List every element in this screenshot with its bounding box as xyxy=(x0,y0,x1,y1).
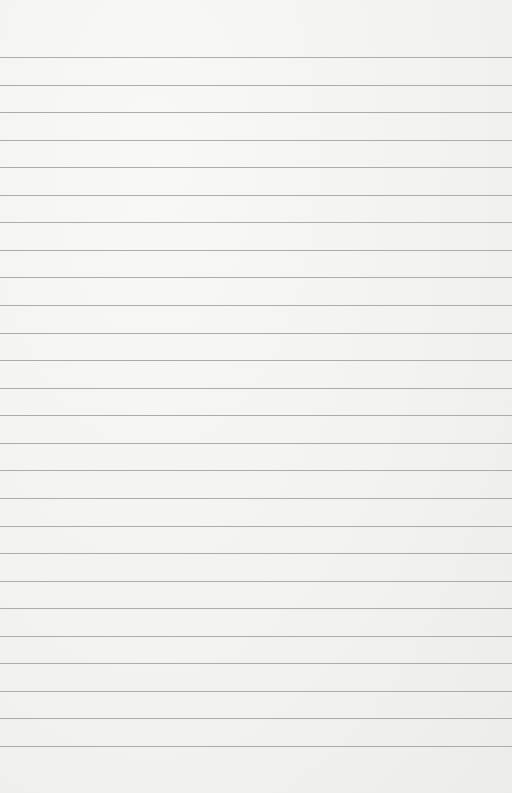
ruled-line xyxy=(0,250,512,251)
ruled-line xyxy=(0,608,512,609)
ruled-line xyxy=(0,277,512,278)
ruled-line xyxy=(0,691,512,692)
ruled-line xyxy=(0,443,512,444)
lined-paper xyxy=(0,0,512,793)
ruled-line xyxy=(0,581,512,582)
ruled-line xyxy=(0,746,512,747)
ruled-line xyxy=(0,526,512,527)
ruled-line xyxy=(0,140,512,141)
ruled-line xyxy=(0,663,512,664)
ruled-line xyxy=(0,305,512,306)
ruled-line xyxy=(0,222,512,223)
ruled-line xyxy=(0,415,512,416)
ruled-line xyxy=(0,470,512,471)
ruled-line xyxy=(0,360,512,361)
ruled-line xyxy=(0,85,512,86)
ruled-line xyxy=(0,718,512,719)
ruled-line xyxy=(0,498,512,499)
ruled-line xyxy=(0,388,512,389)
ruled-line xyxy=(0,167,512,168)
ruled-line xyxy=(0,112,512,113)
ruled-line xyxy=(0,636,512,637)
ruled-line xyxy=(0,57,512,58)
ruled-line xyxy=(0,195,512,196)
ruled-line xyxy=(0,333,512,334)
ruled-line xyxy=(0,553,512,554)
